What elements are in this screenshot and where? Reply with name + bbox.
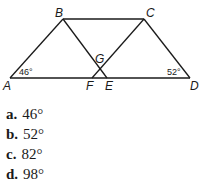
choice-c[interactable]: c.82° [6, 144, 44, 164]
choice-d[interactable]: d.98° [6, 164, 44, 184]
label-a: A [2, 79, 11, 93]
label-d: D [190, 79, 199, 93]
label-e: E [105, 79, 114, 93]
choice-a[interactable]: a.46° [6, 104, 44, 124]
label-c: C [146, 6, 155, 20]
angle-d-label: 52° [167, 67, 181, 77]
choice-value: 82° [21, 146, 42, 162]
angle-a-label: 46° [19, 67, 33, 77]
choice-letter: c. [6, 146, 16, 162]
segment-ab [10, 19, 63, 78]
label-g: G [95, 52, 104, 66]
choice-value: 52° [23, 126, 44, 142]
segment-cf [92, 19, 144, 78]
answer-choices: a.46° b.52° c.82° d.98° [6, 104, 44, 184]
label-f: F [86, 79, 94, 93]
choice-b[interactable]: b.52° [6, 124, 44, 144]
choice-value: 46° [22, 106, 43, 122]
choice-letter: b. [6, 126, 18, 142]
choice-letter: d. [6, 166, 18, 182]
label-b: B [55, 6, 63, 20]
choice-letter: a. [6, 106, 17, 122]
trapezoid-figure: B C A D F E G 46° 52° [0, 0, 204, 100]
choice-value: 98° [23, 166, 44, 182]
